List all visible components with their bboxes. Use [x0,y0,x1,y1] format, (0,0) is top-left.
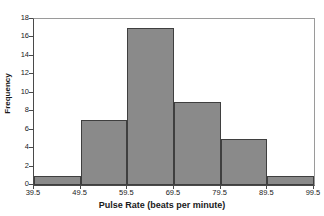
y-axis-tick-labels: 024681012141618 [12,14,29,186]
x-axis-tick-label: 79.5 [212,189,227,197]
x-axis-tick-label: 39.5 [26,189,41,197]
histogram-bar [174,102,221,185]
x-axis-title: Pulse Rate (beats per minute) [0,200,324,210]
plot-area [33,18,315,186]
histogram-bar [34,176,81,185]
x-axis-tick-label: 49.5 [72,189,87,197]
histogram-bars [34,19,314,185]
y-axis-tick-label: 12 [21,70,29,78]
y-axis-tick-label: 14 [21,51,29,59]
y-axis-title-label: Frequency [3,73,12,113]
histogram-bar [267,176,314,185]
x-axis-tick-label: 99.5 [306,189,321,197]
histogram-bar [221,139,268,185]
y-axis-tick-label: 10 [21,88,29,96]
y-axis-tick-label: 18 [21,14,29,22]
x-axis-tick-labels: 39.549.559.569.579.589.599.5 [33,189,314,200]
y-axis-tick-label: 16 [21,33,29,41]
x-axis-tick-label: 89.5 [259,189,274,197]
x-axis-tick-label: 59.5 [119,189,134,197]
histogram-bar [127,28,174,185]
histogram-chart: Frequency 024681012141618 39.549.559.569… [0,0,324,216]
x-axis-tick-label: 69.5 [166,189,181,197]
histogram-bar [81,120,128,185]
